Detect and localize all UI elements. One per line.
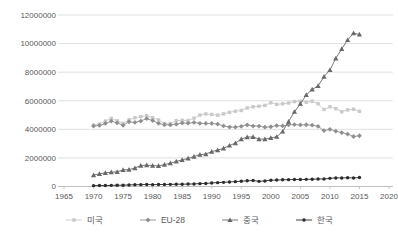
series-marker-eu-28: [304, 122, 309, 127]
y-axis-label: 12000000: [20, 11, 56, 20]
series-marker-usa: [352, 107, 355, 110]
series-marker-usa: [310, 99, 313, 102]
x-axis-label: 1965: [55, 192, 73, 201]
series-marker-eu-28: [174, 122, 179, 127]
series-marker-usa: [281, 102, 284, 105]
series-marker-korea: [305, 178, 308, 181]
x-axis-label: 2020: [380, 192, 398, 201]
series-marker-korea: [334, 176, 337, 179]
series-marker-korea: [127, 183, 130, 186]
series-marker-china: [221, 146, 226, 151]
x-axis-label: 2000: [262, 192, 280, 201]
series-marker-usa: [340, 110, 343, 113]
series-marker-china: [233, 140, 238, 145]
series-marker-korea: [216, 181, 219, 184]
series-eu-28: [91, 116, 362, 139]
series-marker-korea: [228, 180, 231, 183]
x-axis-label: 2005: [291, 192, 309, 201]
series-marker-eu-28: [298, 123, 303, 128]
legend-label-china: 중국: [243, 216, 259, 225]
series-marker-china: [132, 165, 137, 170]
series-marker-usa: [198, 113, 201, 116]
y-axis-label: 10000000: [20, 39, 56, 48]
series-marker-korea: [115, 184, 118, 187]
x-axis-label: 2015: [351, 192, 369, 201]
series-marker-korea: [204, 182, 207, 185]
x-axis-label: 1985: [173, 192, 191, 201]
series-marker-usa: [322, 108, 325, 111]
series-marker-korea: [251, 179, 254, 182]
series-marker-korea: [175, 183, 178, 186]
x-axis-label: 1990: [203, 192, 221, 201]
series-marker-korea: [322, 177, 325, 180]
series-marker-eu-28: [292, 122, 297, 127]
x-axis-label: 1980: [144, 192, 162, 201]
legend-item-china: 중국: [221, 216, 259, 225]
korea-legend-marker-icon: [295, 216, 313, 224]
series-marker-china: [351, 31, 356, 36]
series-marker-korea: [328, 177, 331, 180]
series-marker-china: [310, 87, 315, 92]
series-marker-korea: [316, 177, 319, 180]
series-marker-korea: [110, 184, 113, 187]
series-marker-china: [333, 56, 338, 61]
series-marker-eu-28: [274, 123, 279, 128]
series-marker-korea: [121, 184, 124, 187]
series-marker-korea: [257, 180, 260, 183]
series-marker-eu-28: [133, 120, 138, 125]
series-marker-usa: [334, 107, 337, 110]
series-marker-usa: [287, 101, 290, 104]
series-marker-usa: [192, 116, 195, 119]
series-marker-eu-28: [221, 124, 226, 129]
series-marker-korea: [139, 183, 142, 186]
legend-label-usa: 미국: [87, 216, 103, 225]
series-marker-eu-28: [245, 123, 250, 128]
y-axis-label: 6000000: [25, 97, 57, 106]
series-marker-eu-28: [215, 122, 220, 127]
y-axis-label: 0: [52, 182, 57, 191]
series-marker-korea: [263, 179, 266, 182]
series-marker-eu-28: [198, 121, 203, 126]
series-marker-usa: [257, 104, 260, 107]
series-marker-usa: [293, 100, 296, 103]
series-marker-usa: [275, 103, 278, 106]
series-marker-usa: [263, 104, 266, 107]
series-marker-eu-28: [251, 124, 256, 129]
series-marker-usa: [316, 102, 319, 105]
series-marker-eu-28: [345, 132, 350, 137]
series-marker-usa: [234, 109, 237, 112]
series-marker-korea: [340, 176, 343, 179]
series-marker-korea: [198, 182, 201, 185]
series-marker-usa: [222, 112, 225, 115]
series-marker-korea: [222, 181, 225, 184]
series-marker-korea: [245, 179, 248, 182]
series-marker-korea: [133, 183, 136, 186]
legend-label-korea: 한국: [317, 216, 333, 225]
series-marker-usa: [269, 101, 272, 104]
series-marker-korea: [352, 176, 355, 179]
series-marker-korea: [269, 179, 272, 182]
series-marker-usa: [204, 112, 207, 115]
chart-plot-area: 0200000040000006000000800000010000000120…: [0, 0, 398, 233]
legend-label-eu-28: EU-28: [161, 216, 185, 225]
legend-item-usa: 미국: [65, 216, 103, 225]
series-marker-korea: [157, 183, 160, 186]
series-korea: [92, 176, 361, 188]
series-marker-korea: [299, 178, 302, 181]
series-marker-eu-28: [209, 121, 214, 126]
legend-item-korea: 한국: [295, 216, 333, 225]
series-marker-eu-28: [328, 127, 333, 132]
series-marker-korea: [310, 178, 313, 181]
series-marker-eu-28: [263, 125, 268, 130]
series-marker-china: [315, 83, 320, 88]
series-marker-korea: [358, 176, 361, 179]
series-marker-eu-28: [310, 123, 315, 128]
x-axis-label: 1970: [85, 192, 103, 201]
legend-item-eu-28: EU-28: [139, 216, 185, 225]
series-marker-eu-28: [357, 133, 362, 138]
series-marker-usa: [358, 110, 361, 113]
series-marker-korea: [210, 181, 213, 184]
series-marker-korea: [275, 178, 278, 181]
series-marker-korea: [145, 183, 148, 186]
series-marker-china: [327, 67, 332, 72]
